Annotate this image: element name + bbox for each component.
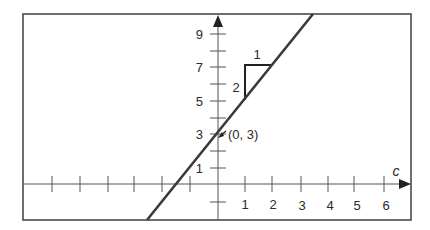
- y-tick-label-3: 3: [196, 127, 203, 142]
- y-tick-label-7: 7: [196, 60, 203, 75]
- y-tick-label-9: 9: [196, 27, 203, 42]
- x-tick-label-2: 2: [269, 197, 276, 212]
- function-line: [147, 14, 313, 220]
- rise-label: 2: [232, 80, 239, 95]
- graph-canvas: 1 2 3 4 5 6 c 1 3 5 7 9 1 2: [0, 0, 430, 230]
- x-axis: 1 2 3 4 5 6 c: [23, 163, 411, 213]
- run-label: 1: [253, 47, 260, 62]
- x-axis-arrow-icon: [399, 179, 411, 189]
- y-intercept-label: (0, 3): [228, 127, 258, 142]
- x-tick-label-1: 1: [241, 197, 248, 212]
- y-tick-label-1: 1: [196, 161, 203, 176]
- y-axis: 1 3 5 7 9: [196, 15, 226, 220]
- x-tick-label-5: 5: [353, 198, 360, 213]
- x-axis-label: c: [393, 163, 400, 179]
- x-tick-label-6: 6: [382, 198, 389, 213]
- x-tick-label-3: 3: [298, 198, 305, 213]
- y-tick-label-5: 5: [196, 94, 203, 109]
- y-axis-arrow-icon: [213, 15, 223, 27]
- graph-frame: [23, 14, 411, 220]
- x-tick-label-4: 4: [326, 198, 333, 213]
